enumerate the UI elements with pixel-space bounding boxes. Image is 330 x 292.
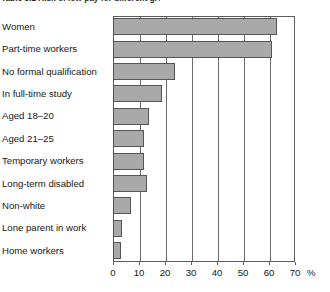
- bar-row: [113, 240, 295, 262]
- bar: [113, 18, 277, 35]
- bar: [113, 220, 122, 237]
- bar: [113, 197, 131, 214]
- category-label: Aged 21–25: [0, 128, 108, 150]
- bar: [113, 108, 149, 125]
- bar-row: [113, 128, 295, 150]
- x-axis: 010203040506070: [113, 262, 295, 292]
- bar-row: [113, 195, 295, 217]
- category-label: Aged 18–20: [0, 105, 108, 127]
- x-tick-20: [165, 262, 166, 265]
- x-tick-50: [243, 262, 244, 265]
- category-label: Women: [0, 16, 108, 38]
- bar-chart-figure: WomenPart-time workersNo formal qualific…: [0, 0, 330, 292]
- x-tick-70: [295, 262, 296, 265]
- bar-row: [113, 150, 295, 172]
- category-label: Part-time workers: [0, 38, 108, 60]
- x-tick-60: [269, 262, 270, 265]
- x-axis-unit-label: %: [307, 267, 316, 278]
- x-tick-30: [191, 262, 192, 265]
- category-label: In full-time study: [0, 83, 108, 105]
- bar-row: [113, 173, 295, 195]
- x-tick-0: [113, 262, 114, 265]
- bar-row: [113, 217, 295, 239]
- bar-row: [113, 16, 295, 38]
- category-label: Non-white: [0, 195, 108, 217]
- category-axis-labels: WomenPart-time workersNo formal qualific…: [0, 16, 109, 262]
- bar-row: [113, 38, 295, 60]
- bar: [113, 175, 147, 192]
- bar: [113, 63, 175, 80]
- x-tick-40: [217, 262, 218, 265]
- bar-row: [113, 83, 295, 105]
- bar-row: [113, 61, 295, 83]
- category-label: No formal qualification: [0, 61, 108, 83]
- bar: [113, 41, 272, 58]
- x-tick-label: 70: [280, 267, 310, 278]
- category-label: Home workers: [0, 240, 108, 262]
- bar: [113, 85, 162, 102]
- x-tick-10: [139, 262, 140, 265]
- category-label: Lone parent in work: [0, 217, 108, 239]
- bar: [113, 130, 144, 147]
- category-label: Long-term disabled: [0, 173, 108, 195]
- bars-group: [113, 16, 295, 262]
- category-label: Temporary workers: [0, 150, 108, 172]
- bar: [113, 153, 144, 170]
- bar: [113, 242, 121, 259]
- bar-row: [113, 105, 295, 127]
